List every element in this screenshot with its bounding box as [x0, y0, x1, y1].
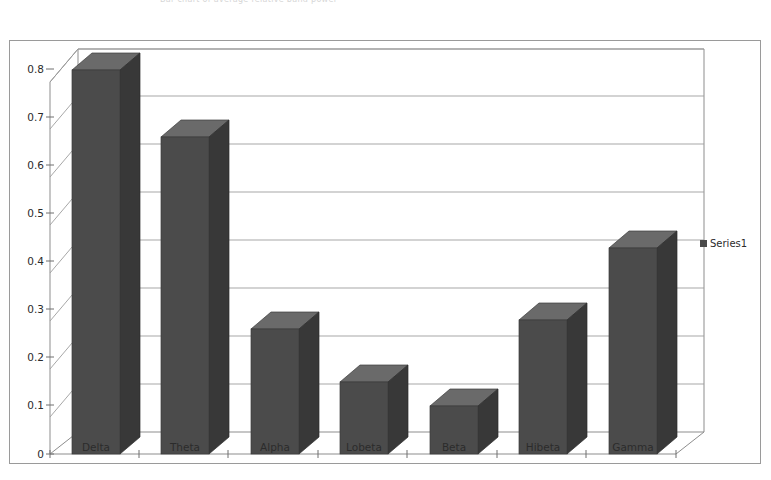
depth-bottom-right	[676, 432, 704, 454]
y-axis-label-3: 0.5	[10, 208, 44, 218]
x-axis-label-lobeta: Lobeta	[319, 441, 409, 453]
bar-delta[interactable]	[72, 53, 140, 454]
y-axis-label-5: 0.3	[10, 304, 44, 314]
y-axis-label-4: 0.4	[10, 256, 44, 266]
y-axis-label-1: 0.7	[10, 112, 44, 122]
bar-theta[interactable]	[161, 120, 229, 454]
bar-theta-side	[209, 120, 229, 454]
x-axis-label-gamma: Gamma	[588, 441, 678, 453]
chart-legend: Series1	[700, 238, 747, 249]
x-axis-label-delta: Delta	[51, 441, 141, 453]
y-axis-label-2: 0.6	[10, 160, 44, 170]
y-axis-label-7: 0.1	[10, 400, 44, 410]
y-axis-label-8: 0	[10, 449, 44, 459]
bar-delta-front	[72, 70, 120, 454]
x-axis-label-beta: Beta	[409, 441, 499, 453]
plot-area: 0.8 0.7 0.6 0.5 0.4 0.3 0.2 0.1 0 Delta …	[10, 41, 762, 463]
bar-theta-front	[161, 137, 209, 454]
bar-hibeta-front	[519, 320, 567, 454]
y-axis-label-6: 0.2	[10, 352, 44, 362]
bar-hibeta-side	[567, 303, 587, 454]
x-axis-label-theta: Theta	[140, 441, 230, 453]
cropped-caption-strip: Bar chart of average relative band power	[0, 0, 771, 14]
y-axis-label-0: 0.8	[10, 64, 44, 74]
caption-text: Bar chart of average relative band power	[160, 0, 337, 4]
bar-delta-side	[120, 53, 140, 454]
bar-alpha-front	[251, 329, 299, 454]
bar-gamma[interactable]	[609, 231, 677, 454]
bar-hibeta[interactable]	[519, 303, 587, 454]
legend-swatch-icon	[700, 240, 707, 247]
x-axis-label-hibeta: Hibeta	[498, 441, 588, 453]
legend-label-series1: Series1	[710, 238, 747, 249]
bar-alpha[interactable]	[251, 312, 319, 454]
bar-gamma-front	[609, 248, 657, 454]
x-axis-label-alpha: Alpha	[230, 441, 320, 453]
chart-container: 0.8 0.7 0.6 0.5 0.4 0.3 0.2 0.1 0 Delta …	[9, 40, 761, 464]
bar-gamma-side	[657, 231, 677, 454]
bar-alpha-side	[299, 312, 319, 454]
chart-canvas	[10, 41, 762, 463]
